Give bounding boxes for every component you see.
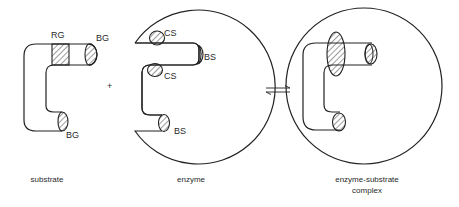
label-bs-top: BS [204, 52, 216, 62]
enzyme-substrate-diagram: RG BG BG BG BG + CS BS CS BS [0, 0, 459, 207]
plus-operator: + [107, 81, 112, 91]
label-rg: RG [51, 30, 65, 40]
bg-bs-bottom-bound [333, 113, 346, 131]
rg-region [52, 44, 69, 65]
label-bg-bottom-visible: BG [66, 130, 79, 140]
caption-substrate: substrate [31, 175, 64, 184]
label-bs-bottom: BS [174, 126, 186, 136]
caption-complex-line2: complex [352, 186, 382, 195]
label-bg-top: BG [96, 33, 109, 43]
rg-cs-bound-site [327, 32, 345, 76]
label-cs-mid: CS [164, 71, 177, 81]
bs-top-site [197, 45, 203, 64]
bg-bottom-cap [58, 112, 68, 131]
label-cs-top: CS [164, 28, 177, 38]
bg-bs-top-bound [365, 44, 377, 64]
substrate-shape [24, 44, 97, 131]
bs-bottom-site [159, 115, 170, 132]
enzyme-shape [135, 10, 275, 164]
caption-complex-line1: enzyme-substrate [335, 175, 399, 184]
complex-shape [286, 8, 442, 164]
caption-enzyme: enzyme [177, 175, 206, 184]
